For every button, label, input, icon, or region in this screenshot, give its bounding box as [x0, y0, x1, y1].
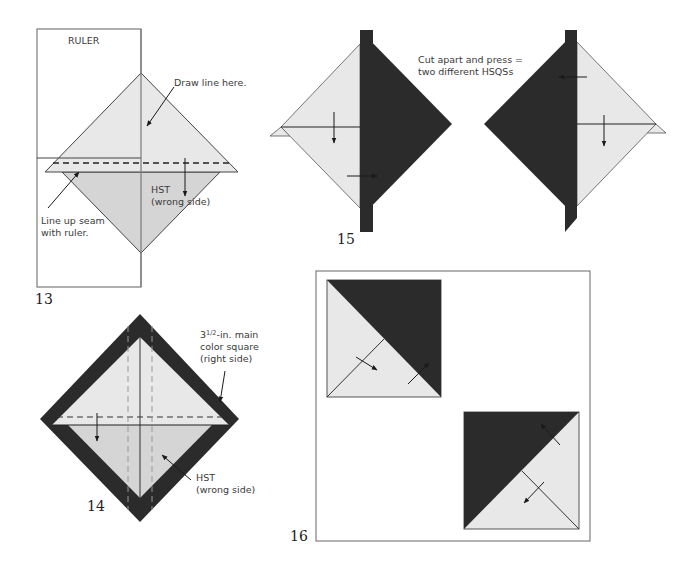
step-number-15: 15	[337, 231, 355, 247]
light-half-left	[281, 44, 360, 208]
hst-label-2: (wrong side)	[151, 196, 210, 207]
ruler-label: RULER	[68, 35, 100, 46]
callout-seam-1: Line up seam	[41, 215, 105, 226]
hsqs-square-1	[327, 280, 441, 397]
step-15-panel: Cut apart and press = two different HSQS…	[270, 30, 666, 247]
strip-tip-right	[565, 218, 577, 232]
hst-label-1: HST	[151, 184, 170, 195]
callout-draw-line: Draw line here.	[174, 77, 246, 88]
step-14-panel: 31/2-in. main color square (right side) …	[40, 314, 259, 522]
arrow-square	[220, 371, 225, 402]
step-16-panel: 16	[290, 271, 590, 544]
step-13-panel: RULER Draw line here. Line up seam with …	[35, 29, 246, 307]
step-number-14: 14	[87, 498, 105, 514]
step-number-13: 13	[35, 291, 53, 307]
square-label-3: (right side)	[200, 353, 252, 364]
square-label-1: 31/2-in. main	[200, 329, 258, 340]
square-label-2: color square	[200, 341, 259, 352]
hst-label-14-1: HST	[196, 472, 215, 483]
quilting-diagram: RULER Draw line here. Line up seam with …	[0, 0, 677, 569]
hsqs-square-2	[464, 412, 579, 529]
callout-seam-2: with ruler.	[41, 227, 89, 238]
caption-15-2: two different HSQSs	[418, 66, 513, 77]
step-number-16: 16	[290, 528, 308, 544]
caption-15-1: Cut apart and press =	[418, 54, 523, 65]
hst-label-14-2: (wrong side)	[196, 484, 255, 495]
